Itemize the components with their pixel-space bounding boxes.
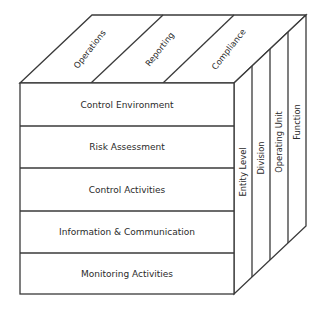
- structure-function: Function: [292, 104, 302, 140]
- component-information-communication: Information & Communication: [59, 227, 195, 237]
- structure-entity-level: Entity Level: [238, 147, 248, 196]
- structure-operating-unit: Operating Unit: [274, 110, 284, 172]
- coso-cube-diagram: Control Environment Risk Assessment Cont…: [0, 0, 324, 309]
- component-monitoring-activities: Monitoring Activities: [81, 269, 173, 279]
- component-control-environment: Control Environment: [81, 100, 174, 110]
- structure-division: Division: [256, 141, 266, 174]
- component-control-activities: Control Activities: [89, 185, 166, 195]
- component-risk-assessment: Risk Assessment: [89, 142, 165, 152]
